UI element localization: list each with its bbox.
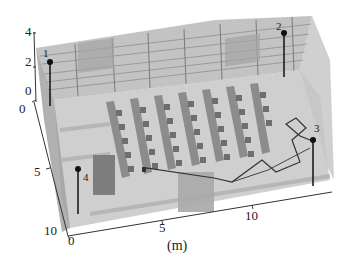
cabinet: [93, 155, 115, 195]
z-tick-0: 0: [25, 84, 32, 97]
y-tick-5: 5: [34, 165, 41, 178]
trajectory-start-marker: [142, 167, 146, 172]
x-tick-5: 5: [159, 221, 166, 234]
axis-unit-label: (m): [167, 239, 187, 253]
y-tick-10: 10: [44, 224, 57, 237]
z-tick-4: 4: [25, 25, 32, 38]
y-tick-0: 0: [19, 102, 26, 115]
sensor-1-label: 1: [43, 48, 49, 59]
wall-panel: [225, 33, 260, 66]
sensor-3-label: 3: [314, 123, 320, 134]
x-tick-0: 0: [68, 234, 75, 247]
sensor-4-label: 4: [83, 172, 89, 183]
wall-panel: [78, 38, 114, 73]
x-tick-10: 10: [245, 209, 258, 222]
sensor-2-label: 2: [276, 21, 282, 32]
front-panel: [178, 172, 214, 212]
room-3d-figure: 1 2 3 4 4 2 0 0 5 10 0 5 10 (m): [0, 0, 342, 266]
z-tick-2: 2: [25, 55, 32, 68]
